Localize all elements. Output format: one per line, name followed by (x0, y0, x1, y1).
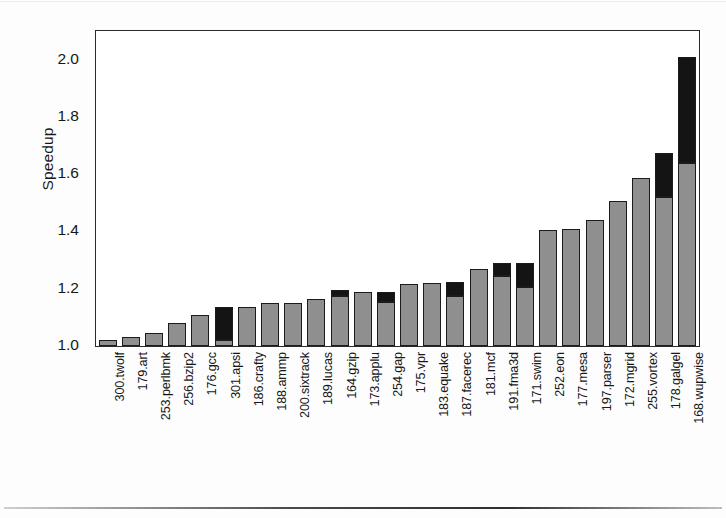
bar-segment-gray (261, 303, 279, 346)
x-axis-tick-label: 181.mcf (484, 352, 498, 396)
x-axis-tick-label: 188.ammp (275, 352, 289, 411)
bar[interactable] (238, 307, 256, 346)
bar-segment-black (377, 292, 395, 302)
bar[interactable] (168, 323, 186, 346)
x-axis-tick-label: 168.wupwise (692, 352, 706, 424)
x-axis-tick-label: 171.swim (530, 352, 544, 404)
bar[interactable] (539, 230, 557, 346)
bar-segment-black (446, 282, 464, 296)
bar-segment-gray (238, 307, 256, 346)
bar[interactable] (609, 201, 627, 346)
bar[interactable] (655, 153, 673, 346)
bar-segment-gray (470, 269, 488, 346)
x-axis-tick-label: 179.art (136, 352, 150, 391)
y-axis-tick-label: 1.4 (57, 221, 79, 239)
bar-segment-gray (609, 201, 627, 346)
bar[interactable] (99, 340, 117, 346)
bar[interactable] (423, 283, 441, 346)
bar[interactable] (400, 284, 418, 346)
bar[interactable] (562, 229, 580, 346)
bar-segment-black (493, 263, 511, 276)
bar-segment-black (655, 153, 673, 197)
bar[interactable] (354, 292, 372, 346)
bar-segment-gray (377, 302, 395, 346)
x-axis-tick-label: 252.eon (553, 352, 567, 397)
x-axis-tick-label: 189.lucas (321, 352, 335, 405)
bar-segment-gray (678, 163, 696, 346)
bar-segment-gray (122, 337, 140, 346)
bar-segment-gray (99, 340, 117, 346)
bar-segment-gray (354, 292, 372, 346)
bar[interactable] (586, 220, 604, 346)
bar-segment-gray (215, 340, 233, 346)
bar-segment-black (215, 307, 233, 340)
bar-segment-gray (400, 284, 418, 346)
x-axis-tick-label: 178.galgel (669, 352, 683, 409)
bar[interactable] (632, 178, 650, 346)
bar[interactable] (493, 263, 511, 346)
figure-canvas: Speedup 1.01.21.41.61.82.0 300.twolf179.… (0, 0, 726, 518)
y-axis-tick-label: 2.0 (57, 50, 79, 68)
x-axis-tick-label: 197.parser (600, 352, 614, 411)
bar-segment-gray (632, 178, 650, 346)
y-axis-tick-label: 1.6 (57, 164, 79, 182)
bar-segment-gray (191, 315, 209, 347)
x-axis-tick-label: 253.perlbmk (159, 352, 173, 420)
x-axis-tick-label: 254.gap (391, 352, 405, 397)
x-axis-tick-label: 183.equake (437, 352, 451, 417)
bar-segment-gray (493, 276, 511, 346)
bar-segment-gray (446, 296, 464, 346)
x-axis-tick-label: 301.apsi (229, 352, 243, 399)
bar[interactable] (331, 290, 349, 346)
bar[interactable] (446, 282, 464, 346)
x-axis-tick-label: 164.gzip (345, 352, 359, 399)
x-axis-tick-label: 172.mgrid (623, 352, 637, 407)
x-axis-tick-label: 191.fma3d (507, 352, 521, 411)
x-axis-tick-label: 255.vortex (646, 352, 660, 410)
x-axis-tick-label: 187.facerec (460, 352, 474, 417)
y-axis-tick-label: 1.8 (57, 107, 79, 125)
scan-artifact-top (0, 1, 726, 2)
bar-segment-gray (539, 230, 557, 346)
x-axis-tick-label: 175.vpr (414, 352, 428, 393)
scan-artifact-bottom (4, 507, 722, 509)
bar-segment-gray (516, 287, 534, 346)
bar-segment-gray (307, 299, 325, 346)
bar-segment-gray (655, 197, 673, 346)
x-axis-tick-labels: 300.twolf179.art253.perlbmk256.bzip2176.… (96, 352, 699, 502)
bar[interactable] (516, 263, 534, 346)
bar[interactable] (191, 315, 209, 347)
x-axis-tick-label: 176.gcc (205, 352, 219, 395)
x-axis-tick-label: 177.mesa (576, 352, 590, 407)
bar-series-group (96, 31, 699, 346)
bar[interactable] (284, 303, 302, 346)
bar[interactable] (215, 307, 233, 346)
y-axis-title: Speedup (39, 99, 57, 219)
bar-segment-gray (284, 303, 302, 346)
x-axis-tick-label: 256.bzip2 (182, 352, 196, 406)
bar[interactable] (470, 269, 488, 346)
bar-segment-black (331, 290, 349, 296)
x-axis-tick-label: 186.crafty (252, 352, 266, 406)
bar-segment-gray (562, 229, 580, 346)
bar[interactable] (678, 57, 696, 346)
bar-segment-gray (145, 333, 163, 346)
bar[interactable] (122, 337, 140, 346)
x-axis-tick-label: 173.applu (368, 352, 382, 406)
bar-segment-black (678, 57, 696, 163)
bar[interactable] (261, 303, 279, 346)
bar-segment-black (516, 263, 534, 287)
bar[interactable] (145, 333, 163, 346)
bar-segment-gray (168, 323, 186, 346)
x-axis-tick-label: 200.sixtrack (298, 352, 312, 418)
bar[interactable] (307, 299, 325, 346)
y-axis-tick-label: 1.2 (57, 279, 79, 297)
y-axis-tick-label: 1.0 (57, 336, 79, 354)
bar-segment-gray (423, 283, 441, 346)
x-axis-tick-label: 300.twolf (113, 352, 127, 402)
bar[interactable] (377, 292, 395, 346)
bar-segment-gray (586, 220, 604, 346)
bar-segment-gray (331, 296, 349, 346)
